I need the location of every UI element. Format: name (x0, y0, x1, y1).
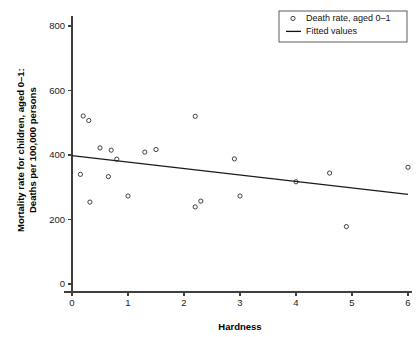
y-tick-label: 200 (49, 214, 65, 225)
data-point (193, 114, 197, 118)
y-tick-label: 800 (49, 20, 65, 31)
data-point (143, 150, 147, 154)
data-point (154, 147, 158, 151)
data-point (106, 175, 110, 179)
y-axis-title-line1: Mortality rate for children, aged 0–1: (15, 68, 26, 232)
x-tick-label: 1 (125, 297, 130, 308)
y-tick-label: 400 (49, 149, 65, 160)
data-point (98, 146, 102, 150)
data-point (232, 157, 236, 161)
data-point (193, 205, 197, 209)
plot-svg: 02004006008000123456HardnessMortality ra… (0, 0, 419, 337)
x-tick-label: 5 (349, 297, 354, 308)
x-tick-label: 4 (293, 297, 298, 308)
x-tick-label: 3 (237, 297, 242, 308)
x-tick-label: 6 (405, 297, 410, 308)
data-point (328, 171, 332, 175)
y-tick-label: 0 (60, 278, 65, 289)
legend-label: Fitted values (306, 26, 358, 36)
data-point (406, 165, 410, 169)
data-point (78, 172, 82, 176)
legend-label: Death rate, aged 0–1 (306, 13, 391, 23)
data-point (126, 194, 130, 198)
legend: Death rate, aged 0–1Fitted values (279, 11, 407, 42)
data-point (344, 224, 348, 228)
y-tick-label: 600 (49, 85, 65, 96)
x-axis-title: Hardness (218, 321, 261, 332)
scatter-series-death-rate-aged-0-1 (78, 114, 410, 229)
data-point (81, 114, 85, 118)
x-tick-label: 0 (69, 297, 74, 308)
data-point (87, 118, 91, 122)
data-point (199, 199, 203, 203)
y-axis-title-line2: Deaths per 100,000 persons (27, 87, 38, 213)
x-tick-label: 2 (181, 297, 186, 308)
mortality-hardness-scatter-chart: 02004006008000123456HardnessMortality ra… (0, 0, 419, 337)
data-point (109, 148, 113, 152)
data-point (88, 200, 92, 204)
data-point (238, 194, 242, 198)
fitted-values-line (72, 156, 408, 195)
